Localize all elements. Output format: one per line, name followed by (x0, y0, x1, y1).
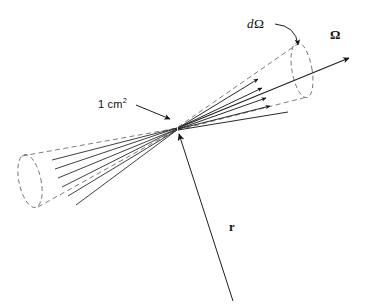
right-ray-arrow (178, 98, 266, 129)
left-cone-cap-ellipse (14, 152, 47, 209)
left-cone-group (14, 128, 178, 210)
direction-vector-label: Ω (330, 28, 340, 41)
solid-angle-element-d: d (247, 16, 254, 31)
right-ray-bundle (178, 79, 288, 130)
left-ray (62, 129, 177, 187)
area-element-value: 1 cm (98, 98, 123, 110)
left-cone-envelope-top (22, 128, 178, 156)
right-cone-group (178, 41, 349, 130)
domega-leader-arrow (275, 24, 298, 45)
solid-angle-element-omega: Ω (254, 16, 265, 31)
left-ray (55, 128, 177, 169)
radiometry-solid-angle-figure: dΩ Ω 1 cm2 r (0, 0, 368, 308)
right-cone-cap-ellipse (287, 41, 316, 100)
solid-angle-element-label: dΩ (247, 17, 264, 31)
left-ray (68, 130, 177, 196)
area-element-exponent: 2 (123, 96, 127, 105)
r-position-vector-arrow (179, 134, 233, 301)
area-leader-arrow (136, 105, 170, 119)
omega-direction-axis (178, 58, 349, 128)
right-ray-arrow (178, 88, 262, 128)
right-ray-arrow (178, 79, 258, 128)
figure-canvas (0, 0, 368, 308)
position-vector-label: r (229, 221, 235, 234)
area-element-label: 1 cm2 (98, 99, 127, 110)
